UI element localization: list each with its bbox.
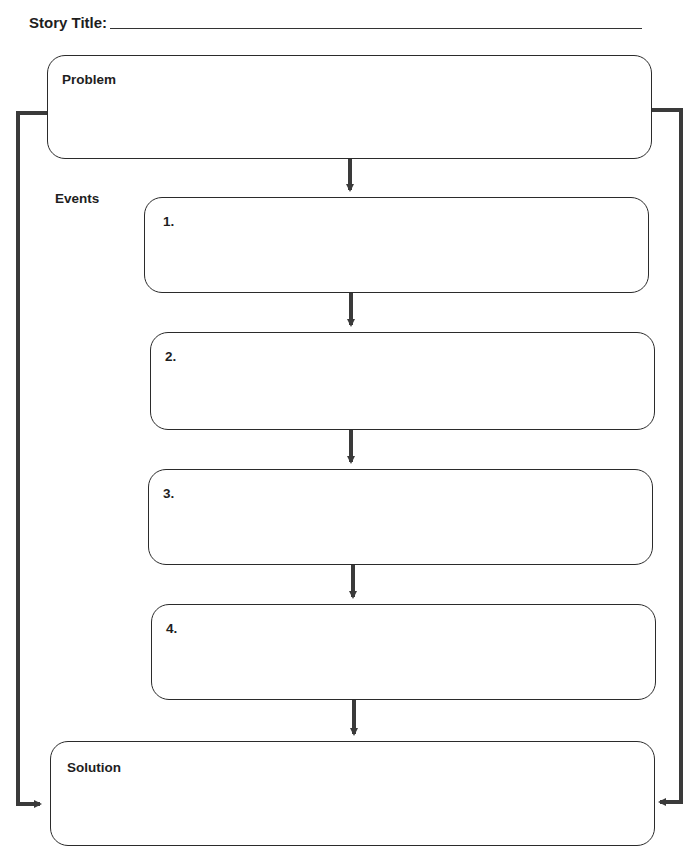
events-label: Events xyxy=(55,191,99,206)
event-number-2: 2. xyxy=(165,349,176,364)
event-number-3: 3. xyxy=(163,486,174,501)
event-number-4: 4. xyxy=(166,621,177,636)
event-number-1: 1. xyxy=(163,214,174,229)
left-loop-arrow-icon xyxy=(18,113,47,804)
event-box-3[interactable]: 3. xyxy=(148,469,653,565)
problem-box[interactable]: Problem xyxy=(47,55,652,159)
event-box-4[interactable]: 4. xyxy=(151,604,656,700)
event-box-1[interactable]: 1. xyxy=(144,197,649,293)
event-box-2[interactable]: 2. xyxy=(150,332,655,430)
solution-box[interactable]: Solution xyxy=(50,741,655,846)
problem-label: Problem xyxy=(62,72,116,87)
solution-label: Solution xyxy=(67,760,121,775)
right-loop-arrow-icon xyxy=(652,110,681,802)
